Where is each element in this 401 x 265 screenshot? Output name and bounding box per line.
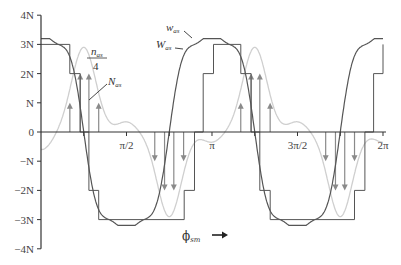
arrow-head-icon: [352, 155, 358, 161]
y-tick-label: −4N: [14, 243, 34, 255]
arrow-head-icon: [67, 103, 73, 109]
arrow-head-icon: [162, 184, 168, 190]
y-tick-label: 4N: [21, 9, 35, 21]
arrow-head-icon: [342, 184, 348, 190]
n-as-denominator: 4: [93, 60, 99, 72]
arrow-head-icon: [323, 155, 329, 161]
y-tick-label: −2N: [14, 184, 34, 196]
arrow-head-icon: [152, 155, 158, 161]
N-as-label: Nas: [107, 75, 122, 89]
arrow-head-icon: [181, 155, 187, 161]
W-as-leader-line: [175, 48, 183, 49]
n-as-label: nas: [91, 45, 103, 59]
w-as-leader-line: [184, 31, 192, 38]
y-tick-label: 0: [29, 126, 35, 138]
x-axis-label: ϕsm: [182, 229, 201, 244]
x-tick-label: 2π: [377, 139, 389, 151]
arrow-head-icon: [96, 103, 102, 109]
W-as-label: Was: [156, 38, 172, 52]
w-as-label: was: [166, 21, 180, 35]
axes: 4N3N2NN0−N−2N−3N−4Nπ/2π3π/22π: [14, 9, 389, 255]
arrow-head-icon: [171, 184, 177, 190]
x-tick-label: π: [209, 139, 215, 151]
y-tick-label: −3N: [14, 214, 34, 226]
arrow-head-icon: [86, 74, 92, 80]
x-tick-label: 3π/2: [288, 139, 308, 151]
arrow-head-icon: [238, 103, 244, 109]
y-tick-label: −N: [20, 155, 34, 167]
arrow-head-icon: [257, 74, 263, 80]
y-tick-label: 3N: [21, 38, 35, 50]
arrow-head-icon: [332, 184, 338, 190]
x-axis-arrow-icon: [222, 232, 228, 239]
n-as-leader-line: [89, 84, 107, 100]
y-tick-label: N: [26, 97, 34, 109]
y-tick-label: 2N: [21, 68, 35, 80]
x-tick-label: π/2: [119, 139, 133, 151]
winding-function-chart: 4N3N2NN0−N−2N−3N−4Nπ/2π3π/22π nas 4 Nas …: [0, 0, 401, 265]
